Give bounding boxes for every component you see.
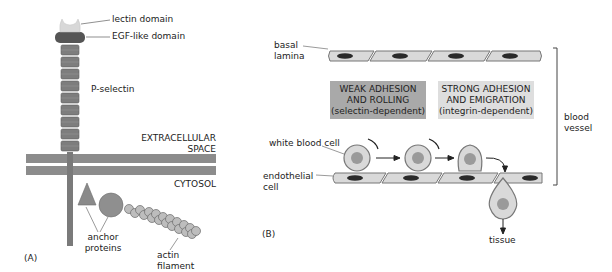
endothelial-cell-label: endothelial cell xyxy=(263,171,313,193)
egf-like-domain-label: EGF-like domain xyxy=(112,31,185,42)
p-selectin-label: P-selectin xyxy=(91,84,134,95)
anchor-protein-sphere xyxy=(99,193,123,217)
anchor-protein-triangle xyxy=(78,183,96,205)
bottom-endothelium xyxy=(333,173,542,183)
weak-adhesion-box: WEAK ADHESION AND ROLLING (selectin-depe… xyxy=(330,81,426,119)
actin-filament xyxy=(125,205,201,239)
panel-a-label: (A) xyxy=(24,253,37,264)
panel-b-label: (B) xyxy=(262,229,275,240)
transmembrane-stalk xyxy=(67,152,73,246)
blood-vessel-bracket xyxy=(553,48,557,185)
tissue-label: tissue xyxy=(489,235,516,246)
actin-filament-label: actin filament xyxy=(157,250,194,272)
rolling-white-blood-cells xyxy=(344,145,482,171)
blood-vessel-label: blood vessel xyxy=(564,112,592,134)
membrane-inner-leaflet xyxy=(26,166,216,175)
white-blood-cell-label: white blood cell xyxy=(269,138,340,149)
cytosol-label: CYTOSOL xyxy=(150,179,216,190)
lectin-domain-label: lectin domain xyxy=(112,14,173,25)
anchor-proteins-label: anchor proteins xyxy=(78,232,128,254)
extracellular-space-label: EXTRACELLULAR SPACE xyxy=(140,133,216,155)
egf-like-domain xyxy=(55,32,85,43)
strong-adhesion-box: STRONG ADHESION AND EMIGRATION (integrin… xyxy=(438,81,534,119)
membrane-outer-leaflet xyxy=(26,154,216,163)
basal-lamina-label: basal lamina xyxy=(274,40,305,62)
lectin-domain xyxy=(60,19,81,32)
